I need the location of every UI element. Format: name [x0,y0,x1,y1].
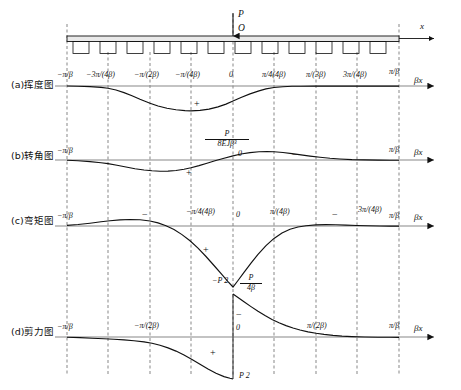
panel-b-tick-2: π/β [389,146,399,154]
panel-b-tick-0: −π/β [57,147,73,155]
panel-d-value-top-denominator: 2 [224,276,228,285]
origin-label-O: O [238,24,245,34]
panel-title-a: (a)挥度图 [11,80,54,90]
panel-d-axis-label: βx [414,324,422,333]
panel-b-sign-plus: + [186,168,192,178]
panel-c-tick-0: −π/β [57,212,73,220]
panel-c-tick-1: −π/4(4β) [186,208,215,216]
x-axis-label: x [420,22,424,31]
panel-a-axis-label: βx [414,76,422,85]
panel-d-value-top: − P 2 [212,272,228,288]
panel-b-axis-label: βx [414,148,422,157]
panel-d-tick-0: −π/β [57,323,73,331]
panel-d-value-bottom-denominator: 2 [246,371,250,380]
foundation-blocks [73,42,386,54]
beam-foundation-diagram [0,0,461,390]
panel-a-tick-2: −π/(2β) [134,71,159,79]
panel-a-tick-0: −π/β [57,71,73,79]
panel-d-tick-3: π/(2β) [307,322,327,330]
panel-c-tick-4: 3π/(4β) [358,206,382,214]
panel-a-tick-1: −3π/(4β) [86,71,115,79]
panel-a-tick-5: π/4(4β) [262,71,286,79]
panel-b-tick-1: 0 [238,150,242,158]
panel-c-tick-3: π/(4β) [270,208,290,216]
panel-b-value-numerator: P [205,130,249,138]
load-label-P: P [238,10,244,20]
panel-c-value-denominator: 4β [240,284,262,292]
panel-a-tick-3: −π/(4β) [175,71,200,79]
panel-a-tick-8: π/β [389,68,399,76]
panel-d-value-bottom-fraction: P 2 [239,372,250,380]
panel-d-tick-4: π/β [389,322,399,330]
panel-c-sign-minus-left: − [142,210,148,220]
panel-d-value-bottom: P 2 [239,367,250,383]
panel-a-tick-7: 3π/(4β) [343,71,367,79]
panel-a-tick-6: π/(3β) [306,71,326,79]
panel-a-tick-4: 0 [229,71,233,79]
panel-d-tick-1: −π/(2β) [134,322,159,330]
panel-a-sign-plus: + [194,99,200,109]
panel-c-tick-5: π/β [389,212,399,220]
panel-b-value-label: P 8EJβ³ [205,130,249,149]
panel-c-sign-plus: + [203,245,209,255]
panel-title-b: (b)转角图 [11,151,54,161]
panel-d-value-bottom-numerator: P [239,371,244,380]
panel-d-value-top-numerator: P [217,276,222,285]
panel-title-d: (d)剪力图 [11,327,54,337]
panel-a-deflection [55,86,434,111]
panel-c-sign-minus-right: − [332,210,338,220]
panel-d-sign-plus: + [210,348,216,358]
panel-c-value-numerator: P [240,274,262,282]
panel-title-c: (c)弯矩图 [11,216,54,226]
panel-d-value-top-fraction: P 2 [217,277,228,285]
beam-structure [67,13,434,54]
panel-c-value-label: P 4β [240,274,262,293]
panel-b-value-denominator: 8EJβ³ [205,140,249,148]
panel-b-rotation [55,152,434,172]
panel-d-tick-2: 0 [236,324,240,332]
panel-d-sign-minus: − [236,310,242,320]
panel-c-tick-2: 0 [236,211,240,219]
panel-c-axis-label: βx [414,213,422,222]
panel-b-sign-minus: − [292,150,298,160]
